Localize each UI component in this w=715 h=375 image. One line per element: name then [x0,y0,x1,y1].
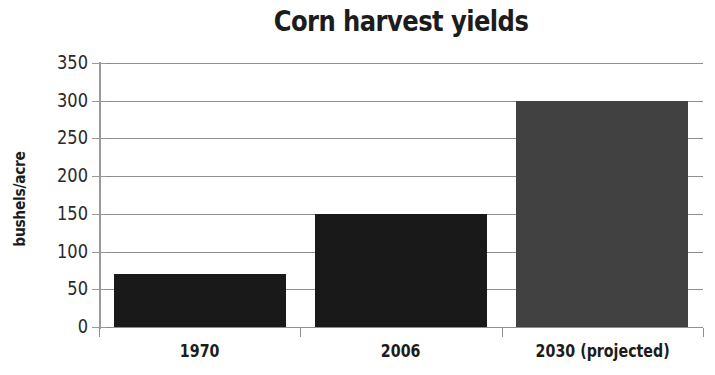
y-axis-tick-label-wrap: 350 [26,51,88,73]
y-axis-tick-label: 250 [29,126,88,148]
x-axis-tick-label: 2006 [307,341,494,361]
x-axis-tick [300,328,301,337]
x-axis-tick [99,328,100,337]
y-axis-tick-label-wrap: 100 [26,240,88,262]
y-axis-tick-label-wrap: 200 [26,164,88,186]
y-axis-tick-label-wrap: 300 [26,89,88,111]
x-axis-tick-label: 2030 (projected) [509,341,696,361]
gridline [99,327,703,328]
x-axis-tick [502,328,503,337]
x-axis-tick [703,328,704,337]
y-axis-tick [92,101,106,102]
y-axis-tick-label-wrap: 0 [26,315,88,337]
bar[interactable] [516,101,688,327]
y-axis-tick [92,252,106,253]
y-axis-tick-label: 300 [29,89,88,111]
gridline [99,63,703,64]
y-axis-tick-label: 50 [29,277,88,299]
y-axis-tick-label-wrap: 250 [26,126,88,148]
y-axis-tick [92,289,106,290]
y-axis-tick-label: 100 [29,240,88,262]
corn-harvest-yields-chart: Corn harvest yields bushels/acre 3503002… [0,0,715,375]
plot-area [99,63,703,327]
y-axis-tick-label: 150 [29,202,88,224]
y-axis-tick-label: 0 [29,315,88,337]
y-axis-tick [92,214,106,215]
x-axis-tick-label: 1970 [106,341,293,361]
y-axis-tick-label-wrap: 50 [26,277,88,299]
y-axis-tick-label: 200 [29,164,88,186]
chart-title: Corn harvest yields [120,4,682,38]
y-axis-tick-label-wrap: 150 [26,202,88,224]
y-axis-tick [92,138,106,139]
bar[interactable] [114,274,286,327]
y-axis-tick-label: 350 [29,51,88,73]
y-axis-tick [92,176,106,177]
y-axis-tick [92,63,106,64]
bar[interactable] [315,214,487,327]
